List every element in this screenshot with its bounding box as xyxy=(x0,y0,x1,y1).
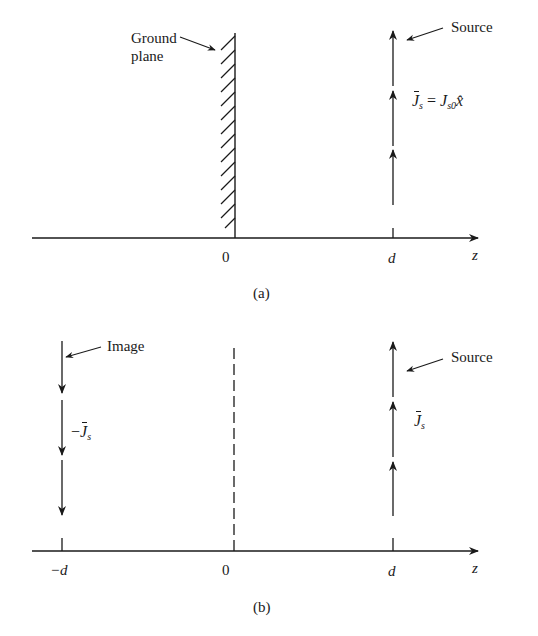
ground-plane-label: Ground plane xyxy=(131,31,177,64)
tick-label-d-a: d xyxy=(388,251,396,266)
ground-plane xyxy=(221,33,235,238)
x-hat-unit-vector: x̂ xyxy=(456,92,463,109)
equals-sign: = xyxy=(423,92,440,109)
panel-b xyxy=(32,341,478,551)
caption-b: (b) xyxy=(253,600,271,615)
ground-label-line2: plane xyxy=(131,49,177,64)
tick-label-zero-a: 0 xyxy=(222,250,230,265)
tick-label-d-b: d xyxy=(388,564,396,579)
tick-label-minus-d: −d xyxy=(50,563,68,578)
source-label-b: Source xyxy=(451,350,493,365)
panel-a xyxy=(32,28,478,238)
tick-label-zero-b: 0 xyxy=(222,563,230,578)
source-pointer-arrow-b xyxy=(407,359,443,371)
source-label-a: Source xyxy=(451,20,493,35)
source-current-label-b: Js xyxy=(414,413,425,431)
image-current-label: −Js xyxy=(71,424,91,442)
image-pointer-arrow xyxy=(66,347,101,357)
caption-a: (a) xyxy=(253,286,270,301)
current-density-equation: Js = Js0x̂ xyxy=(412,93,463,111)
axis-label-z-a: z xyxy=(472,248,478,263)
minus-sign: − xyxy=(71,423,80,440)
ground-plane-pointer-arrow xyxy=(180,37,215,50)
image-label: Image xyxy=(107,339,144,354)
ground-label-line1: Ground xyxy=(131,31,177,46)
J-subscript-2: s0 xyxy=(447,100,456,111)
J-subscript: s xyxy=(421,420,425,431)
J-symbol: J xyxy=(80,424,87,440)
J-symbol: J xyxy=(414,413,421,429)
J-subscript: s xyxy=(87,431,91,442)
source-pointer-arrow-a xyxy=(407,28,443,40)
axis-label-z-b: z xyxy=(472,561,478,576)
J-symbol: J xyxy=(412,93,419,109)
